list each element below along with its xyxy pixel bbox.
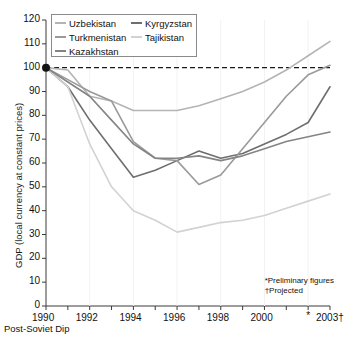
y-tick-label: 20 bbox=[12, 251, 40, 262]
footnote-projected: †Projected bbox=[265, 286, 334, 296]
y-tick-label: 110 bbox=[12, 37, 40, 48]
y-tick-label: 50 bbox=[12, 180, 40, 191]
legend-swatch-icon bbox=[55, 50, 66, 52]
chart-caption: Post-Soviet Dip bbox=[4, 323, 69, 334]
legend-item-uzbekistan[interactable]: Uzbekistan bbox=[55, 16, 131, 30]
x-tick-label: 1990 bbox=[32, 312, 54, 323]
x-tick-label: 1994 bbox=[119, 312, 141, 323]
footnote-preliminary: *Preliminary figures bbox=[265, 276, 334, 286]
x-tick-label: 1998 bbox=[207, 312, 229, 323]
axis-lines bbox=[46, 20, 330, 306]
legend-item-kazakhstan[interactable]: Kazakhstan bbox=[55, 44, 131, 58]
legend-swatch-icon bbox=[131, 36, 142, 38]
x-tick-label: * bbox=[306, 310, 310, 321]
y-tick-label: 0 bbox=[12, 299, 40, 310]
legend-item-kyrgyzstan[interactable]: Kyrgyzstan bbox=[131, 16, 201, 30]
y-tick-label: 80 bbox=[12, 108, 40, 119]
legend-item-turkmenistan[interactable]: Turkmenistan bbox=[55, 30, 131, 44]
legend-label: Uzbekistan bbox=[69, 18, 116, 29]
series-line-turkmenistan bbox=[46, 65, 330, 184]
x-tick-label: 2003† bbox=[316, 312, 344, 323]
legend-grid: UzbekistanKyrgyzstanTurkmenistanTajikist… bbox=[52, 15, 196, 56]
series-line-kazakhstan bbox=[46, 68, 330, 161]
legend-label: Tajikistan bbox=[145, 32, 184, 43]
legend-swatch-icon bbox=[55, 22, 66, 24]
series-line-tajikistan bbox=[46, 68, 330, 232]
y-tick-label: 90 bbox=[12, 85, 40, 96]
legend-label: Kazakhstan bbox=[69, 46, 119, 57]
start-marker-dot bbox=[42, 64, 50, 72]
x-tick-label: 1992 bbox=[76, 312, 98, 323]
legend-label: Turkmenistan bbox=[69, 32, 126, 43]
y-tick-label: 100 bbox=[12, 61, 40, 72]
y-tick-label: 60 bbox=[12, 156, 40, 167]
legend-label: Kyrgyzstan bbox=[145, 18, 192, 29]
y-tick-label: 30 bbox=[12, 228, 40, 239]
legend-item-tajikistan[interactable]: Tajikistan bbox=[131, 30, 201, 44]
x-tick-label: 2000 bbox=[250, 312, 272, 323]
y-tick-label: 10 bbox=[12, 275, 40, 286]
footnotes: *Preliminary figures †Projected bbox=[265, 276, 334, 295]
legend-swatch-icon bbox=[55, 36, 66, 38]
series-line-kyrgyzstan bbox=[46, 68, 330, 178]
y-tick-label: 120 bbox=[12, 13, 40, 24]
y-tick-label: 40 bbox=[12, 204, 40, 215]
legend-swatch-icon bbox=[131, 22, 142, 24]
y-tick-label: 70 bbox=[12, 132, 40, 143]
legend: UzbekistanKyrgyzstanTurkmenistanTajikist… bbox=[51, 14, 197, 57]
x-tick-label: 1996 bbox=[163, 312, 185, 323]
legend-spacer bbox=[131, 44, 201, 58]
